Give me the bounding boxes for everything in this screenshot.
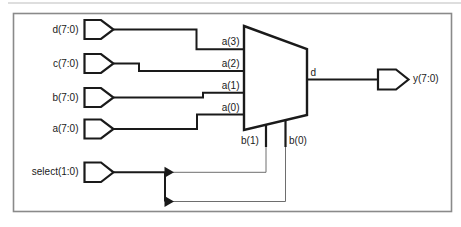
port-a-label: a(7:0) — [52, 123, 78, 135]
port-select-label: select(1:0) — [32, 166, 79, 178]
mux-symbol — [244, 26, 307, 130]
mux-pin-b1-label: b(1) — [241, 135, 259, 147]
port-b-symbol — [85, 88, 114, 107]
port-c-symbol — [85, 54, 114, 73]
port-a-symbol — [85, 120, 114, 139]
mux-pin-a2-label: a(2) — [222, 58, 240, 70]
mux-pin-b0-label: b(0) — [289, 135, 307, 147]
mux-output-pin-label: d — [311, 67, 317, 79]
mux-pin-a0-label: a(0) — [222, 102, 240, 114]
mux-pin-a1-label: a(1) — [222, 80, 240, 92]
select-arrow-icon-b1 — [165, 167, 175, 178]
wire-b-to-a1 — [114, 93, 245, 98]
port-d-label: d(7:0) — [52, 24, 78, 36]
select-bit1-wire — [173, 146, 266, 172]
port-select-symbol — [85, 163, 114, 183]
port-y-symbol — [378, 70, 409, 90]
schematic-figure: d(7:0) c(7:0) b(7:0) a(7:0) select(1:0) … — [0, 0, 461, 227]
port-d-symbol — [85, 20, 114, 39]
select-arrow-icon-b0 — [165, 196, 175, 207]
port-y-label: y(7:0) — [413, 73, 439, 85]
mux-pin-a3-label: a(3) — [222, 36, 240, 48]
select-bit0-wire — [173, 146, 286, 202]
wire-select-trunk — [114, 172, 166, 201]
wire-a-to-a0 — [114, 115, 245, 130]
port-c-label: c(7:0) — [53, 58, 79, 70]
port-b-label: b(7:0) — [52, 92, 78, 104]
